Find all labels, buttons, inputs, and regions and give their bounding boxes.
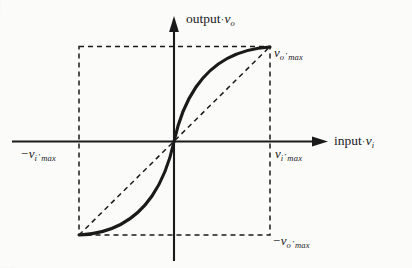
x-min-sign: −	[20, 146, 29, 161]
x-min-label: −vi‧max	[20, 147, 56, 162]
y-min-sign: −	[272, 233, 281, 248]
y-min-qualifier: max	[295, 240, 310, 250]
x-max-qualifier: max	[287, 153, 302, 163]
y-max-label: vo‧max	[274, 46, 303, 61]
y-axis-variable-subscript: o	[231, 18, 235, 28]
x-min-qualifier: max	[41, 153, 56, 163]
x-axis-variable-subscript: i	[372, 140, 375, 150]
y-axis-arrowhead	[169, 16, 179, 32]
y-axis-title-text: output	[186, 11, 221, 26]
x-axis-title-text: input	[334, 133, 362, 148]
x-axis-title: input‧vi	[334, 134, 374, 149]
x-max-label: vi‧max	[275, 147, 302, 162]
y-min-label: −vo‧max	[272, 234, 310, 249]
x-axis-arrowhead	[312, 137, 328, 147]
y-max-qualifier: max	[288, 52, 303, 62]
y-axis-title: output‧vo	[186, 12, 235, 27]
